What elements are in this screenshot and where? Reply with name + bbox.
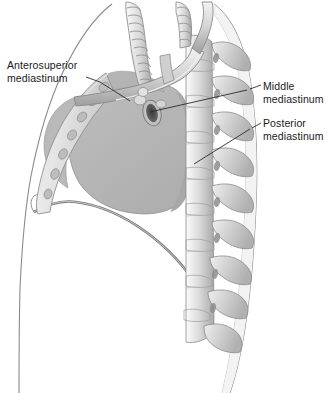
- posterior-label-line2: mediastinum: [263, 130, 324, 143]
- middle-mediastinum-label: Middle mediastinum: [263, 80, 324, 105]
- anterosuperior-mediastinum-label: Anterosuperior mediastinum: [7, 59, 77, 84]
- posterior-mediastinum-label: Posterior mediastinum: [263, 117, 324, 142]
- middle-label-line2: mediastinum: [263, 93, 324, 106]
- anterosuperior-label-line1: Anterosuperior: [7, 59, 77, 72]
- thoracic-vertebral-column: [184, 35, 254, 353]
- middle-label-line1: Middle: [263, 80, 324, 93]
- anterosuperior-label-line2: mediastinum: [7, 72, 77, 85]
- mediastinum-anatomical-diagram: Anterosuperior mediastinum Middle medias…: [0, 0, 331, 393]
- oesophagus: [176, 2, 192, 48]
- posterior-label-line1: Posterior: [263, 117, 324, 130]
